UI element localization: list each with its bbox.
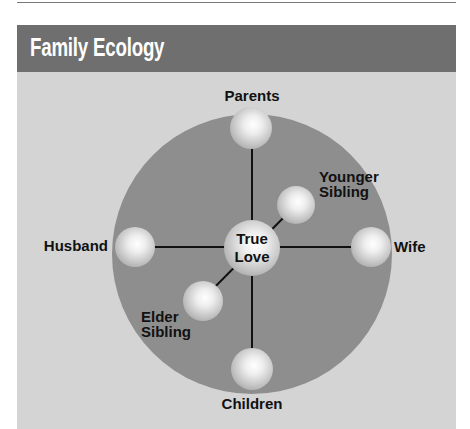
label-younger-2: Sibling <box>319 183 369 200</box>
label-true-love-2: Love <box>234 248 269 265</box>
node-parents <box>230 107 272 149</box>
label-wife: Wife <box>394 238 426 255</box>
node-wife <box>351 227 391 267</box>
node-children <box>231 348 273 390</box>
label-elder-2: Sibling <box>141 323 191 340</box>
label-parents: Parents <box>224 87 279 104</box>
family-ecology-diagram: True Love Parents Children Husband Wife … <box>0 0 470 429</box>
label-husband: Husband <box>44 237 108 254</box>
label-true-love-1: True <box>236 230 268 247</box>
node-younger-sibling <box>277 186 315 224</box>
node-elder-sibling <box>183 281 223 321</box>
label-children: Children <box>222 395 283 412</box>
node-husband <box>115 227 155 267</box>
